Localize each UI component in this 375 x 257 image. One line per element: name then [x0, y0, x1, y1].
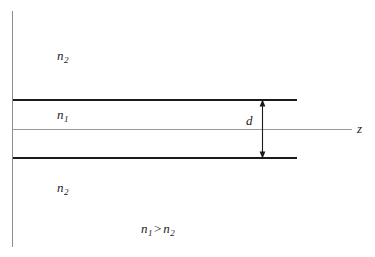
label-cladding-upper-symbol: n — [57, 48, 64, 63]
condition-left-subscript: 1 — [148, 228, 153, 238]
condition-left-symbol: n — [141, 221, 148, 236]
label-core-symbol: n — [57, 107, 64, 122]
label-axis-z: z — [357, 122, 362, 135]
label-cladding-lower-symbol: n — [57, 180, 64, 195]
thickness-dimension-arrow — [258, 99, 267, 159]
upper-core-cladding-boundary — [13, 99, 297, 101]
label-cladding-lower-subscript: 2 — [64, 187, 69, 197]
label-core-subscript: 1 — [64, 114, 69, 124]
label-core-index: n1 — [57, 108, 68, 121]
label-thickness-d: d — [246, 114, 253, 127]
label-index-condition: n1>n2 — [141, 222, 174, 235]
waveguide-diagram: n2 n1 n2 d z n1>n2 — [0, 0, 375, 257]
label-cladding-upper-subscript: 2 — [64, 55, 69, 65]
lower-core-cladding-boundary — [13, 157, 297, 159]
condition-right-subscript: 2 — [170, 228, 175, 238]
z-axis-line — [12, 129, 352, 130]
label-cladding-upper-index: n2 — [57, 49, 68, 62]
condition-operator: > — [152, 221, 163, 236]
label-cladding-lower-index: n2 — [57, 181, 68, 194]
condition-right-symbol: n — [163, 221, 170, 236]
